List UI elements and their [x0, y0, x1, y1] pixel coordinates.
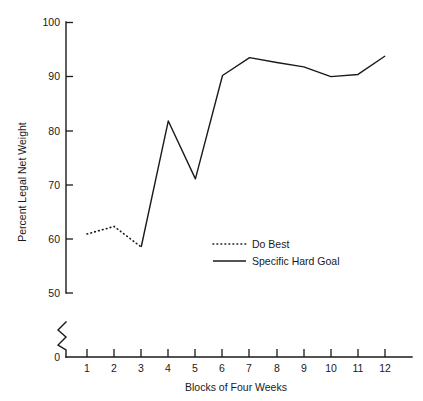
- x-tick-label-8: 8: [274, 362, 280, 374]
- x-tick-label-7: 7: [246, 362, 252, 374]
- legend-label-do-best: Do Best: [252, 238, 289, 250]
- y-tick-label-70: 70: [48, 179, 60, 191]
- line-chart-canvas: 100 90 80 70 60 50 0 Percent Legal Net W…: [0, 0, 423, 401]
- x-tick-label-4: 4: [165, 362, 171, 374]
- x-tick-label-11: 11: [353, 362, 364, 374]
- legend-label-specific-hard-goal: Specific Hard Goal: [252, 255, 340, 267]
- y-tick-label-0: 0: [54, 351, 60, 363]
- y-axis-title: Percent Legal Net Weight: [16, 122, 28, 242]
- y-tick-label-90: 90: [48, 70, 60, 82]
- x-tick-label-9: 9: [301, 362, 307, 374]
- plot-area: [87, 56, 385, 247]
- x-tick-label-3: 3: [138, 362, 144, 374]
- series-line-specific-hard-goal: [141, 56, 385, 247]
- x-axis-title: Blocks of Four Weeks: [185, 381, 287, 393]
- y-tick-label-60: 60: [48, 233, 60, 245]
- chart-figure: 100 90 80 70 60 50 0 Percent Legal Net W…: [0, 0, 423, 401]
- x-tick-label-12: 12: [379, 362, 391, 374]
- legend: Do Best Specific Hard Goal: [213, 238, 340, 267]
- x-axis: 1 2 3 4 5 6 7 8 9 10 11 12 Blocks of Fou…: [66, 349, 412, 393]
- y-tick-label-80: 80: [48, 125, 60, 137]
- x-tick-label-10: 10: [325, 362, 337, 374]
- y-tick-label-50: 50: [48, 287, 60, 299]
- x-tick-label-5: 5: [192, 362, 198, 374]
- x-tick-label-2: 2: [111, 362, 117, 374]
- x-tick-label-6: 6: [219, 362, 225, 374]
- x-tick-label-1: 1: [84, 362, 90, 374]
- y-axis: 100 90 80 70 60 50 0 Percent Legal Net W…: [16, 16, 73, 363]
- y-tick-label-100: 100: [42, 16, 60, 28]
- series-line-do-best: [87, 226, 141, 247]
